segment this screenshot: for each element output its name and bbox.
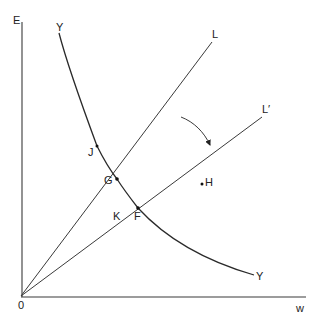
point-g-dot — [115, 177, 119, 181]
y-axis-label: E — [13, 15, 20, 26]
point-g-label: G — [104, 175, 113, 186]
x-axis-label: w — [296, 303, 304, 314]
diagram-canvas: E w 0 Y Y L L′ J G K F H — [0, 0, 317, 322]
line-l-prime-label: L′ — [262, 104, 270, 115]
line-l-prime — [21, 117, 262, 296]
point-j-label: J — [88, 147, 94, 158]
point-k-label: K — [113, 211, 120, 222]
yy-curve-bottom-label: Y — [256, 271, 263, 282]
diagram-svg — [0, 0, 317, 322]
rotation-arrow-icon — [181, 117, 210, 145]
yy-curve-top-label: Y — [56, 22, 63, 33]
line-l — [21, 42, 212, 296]
line-l-label: L — [212, 29, 218, 40]
point-f-label: F — [134, 211, 141, 222]
origin-label: 0 — [18, 300, 24, 311]
point-h-label: H — [205, 177, 213, 188]
point-j-dot — [96, 145, 99, 148]
point-h-dot — [201, 183, 204, 186]
